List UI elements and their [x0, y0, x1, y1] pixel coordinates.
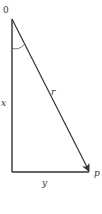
point-label: p: [94, 168, 100, 178]
vertical-leg-label: x: [1, 98, 6, 108]
origin-label: 0: [3, 5, 9, 15]
angle-arc-icon: [12, 44, 25, 49]
triangle-diagram: 0 r x y p: [0, 0, 102, 214]
horizontal-leg-label: y: [41, 178, 48, 188]
hypotenuse-label: r: [51, 87, 56, 97]
